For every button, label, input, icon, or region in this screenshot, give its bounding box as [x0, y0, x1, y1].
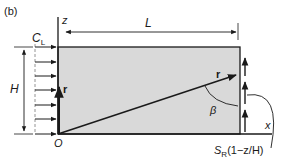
flow-domain-diagram: (b) z L CL H r r β x O SR(1−z/H) [0, 0, 287, 164]
right-boundary-label: SR(1−z/H) [214, 144, 264, 159]
z-axis-label: z [61, 14, 68, 26]
left-boundary-label: CL [32, 31, 46, 47]
domain-rectangle [58, 47, 240, 134]
length-label: L [145, 16, 152, 30]
angle-beta-label: β [209, 104, 217, 116]
x-axis-label: x [264, 119, 271, 131]
height-label: H [10, 82, 19, 96]
vector-r-diagonal-label: r [216, 68, 221, 80]
panel-label: (b) [4, 5, 17, 17]
vector-r-vertical-label: r [63, 83, 68, 95]
left-inflow-arrows [35, 47, 56, 134]
origin-label: O [54, 137, 63, 149]
